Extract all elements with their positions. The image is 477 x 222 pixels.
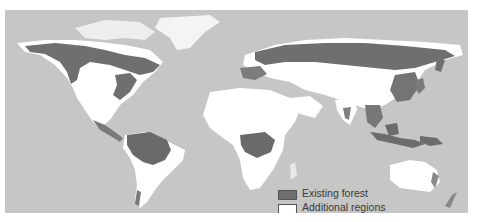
world-map-svg — [5, 10, 468, 213]
legend-item-former-forest: Additional regions forested 8,000 years … — [278, 202, 418, 213]
arctic-islands — [75, 20, 155, 40]
top-caption-cropped — [230, 0, 470, 4]
se-asia — [365, 105, 383, 128]
borneo — [385, 123, 399, 136]
legend-label-existing-forest: Existing forest — [302, 188, 368, 199]
map-legend: Existing forest Additional regions fores… — [278, 188, 418, 213]
indonesia — [370, 132, 425, 148]
central-america — [93, 120, 123, 142]
legend-label-former-forest: Additional regions forested 8,000 years … — [302, 202, 418, 213]
legend-item-existing-forest: Existing forest — [278, 188, 418, 200]
madagascar — [290, 162, 297, 180]
world-forest-map: Existing forest Additional regions fores… — [5, 10, 468, 213]
former-forest-swatch-icon — [278, 204, 297, 213]
greenland — [155, 15, 220, 50]
existing-forest-swatch-icon — [278, 190, 297, 200]
new-zealand — [445, 192, 457, 208]
